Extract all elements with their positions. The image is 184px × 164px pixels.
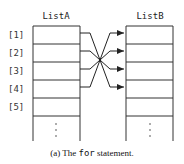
caption-code: for	[79, 148, 95, 158]
figure-caption: (a) The for statement.	[0, 148, 184, 158]
mapping-arrows	[80, 33, 124, 87]
array-diagram	[0, 0, 184, 164]
ellipsis-dots	[55, 123, 151, 137]
